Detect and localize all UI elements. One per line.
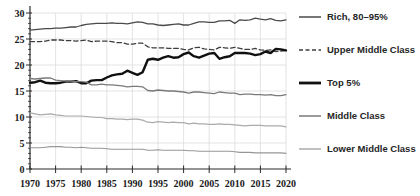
y-tick-label: 15 [15, 86, 25, 97]
legend-line-swatch [299, 109, 321, 123]
x-tick-label: 2010 [225, 178, 245, 189]
legend-item-top-5: Top 5% [299, 66, 420, 99]
x-tick-label: 1975 [46, 178, 66, 189]
x-tick-label: 2015 [250, 178, 270, 189]
x-tick-label: 2005 [199, 178, 219, 189]
legend-item-middle-class: Middle Class [299, 99, 420, 132]
income-share-chart: 0510152025301970197519801985199019952000… [0, 0, 420, 196]
legend-item-lower-middle-class: Lower Middle Class [299, 132, 420, 165]
y-tick-label: 0 [20, 164, 25, 175]
legend-item-label: Rich, 80–95% [327, 11, 388, 22]
legend-line-swatch [299, 10, 321, 24]
legend-item-label: Top 5% [327, 77, 360, 88]
axes [30, 6, 291, 169]
x-tick-label: 1995 [148, 178, 168, 189]
x-tick-label: 1985 [97, 178, 117, 189]
y-tick-label: 25 [15, 34, 25, 45]
y-tick-label: 10 [15, 112, 25, 123]
legend-item-label: Upper Middle Class [327, 44, 415, 55]
x-tick-label: 1990 [122, 178, 142, 189]
y-tick-label: 20 [15, 60, 25, 71]
axis-tick-labels: 0510152025301970197519801985199019952000… [15, 8, 297, 190]
legend-item-label: Middle Class [327, 110, 385, 121]
legend-item-upper-middle-class: Upper Middle Class [299, 33, 420, 66]
y-tick-label: 30 [15, 8, 25, 19]
chart-legend: Rich, 80–95%Upper Middle ClassTop 5%Midd… [299, 0, 420, 165]
y-tick-label: 5 [20, 138, 25, 149]
legend-line-swatch [299, 142, 321, 156]
axis-ticks [26, 13, 286, 173]
legend-item-rich-80-95: Rich, 80–95% [299, 0, 420, 33]
x-tick-label: 2000 [174, 178, 194, 189]
x-tick-label: 1970 [20, 178, 40, 189]
x-tick-label: 2020 [276, 178, 296, 189]
legend-line-swatch [299, 43, 321, 57]
gridlines [30, 13, 286, 169]
legend-item-label: Lower Middle Class [327, 143, 416, 154]
legend-line-swatch [299, 76, 321, 90]
x-tick-label: 1980 [71, 178, 91, 189]
